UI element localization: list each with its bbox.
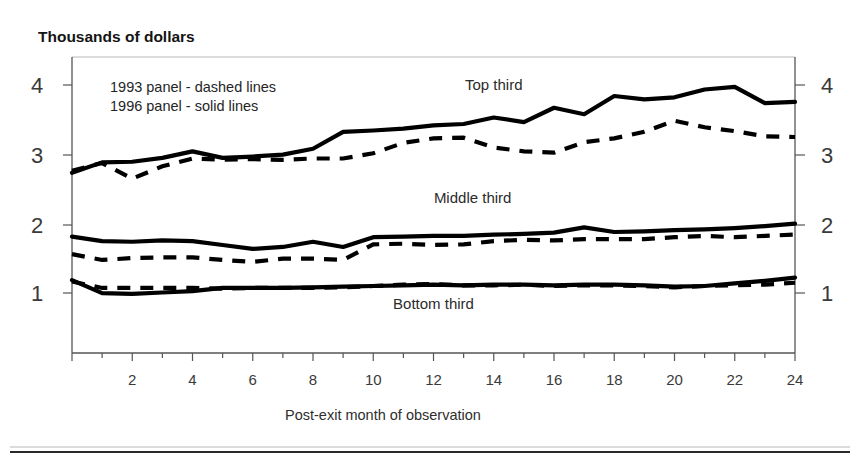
y-axis-title: Thousands of dollars	[38, 28, 195, 45]
x-tick-label-8: 8	[309, 371, 317, 388]
y-tick-label-right-4: 4	[821, 73, 833, 98]
x-tick-label-14: 14	[485, 371, 502, 388]
chart-figure: Thousands of dollars 4 3 2 1 4 3 2 1 246…	[0, 0, 860, 460]
x-tick-label-18: 18	[606, 371, 623, 388]
x-tick-label-12: 12	[425, 371, 442, 388]
series-label-top-third: Top third	[465, 76, 523, 93]
y-tick-label-left-3: 3	[31, 143, 43, 168]
y-tick-label-left-4: 4	[31, 73, 43, 98]
x-tick-label-20: 20	[666, 371, 683, 388]
x-tick-label-6: 6	[249, 371, 257, 388]
x-axis-title: Post-exit month of observation	[285, 407, 481, 423]
x-tick-label-2: 2	[128, 371, 136, 388]
series-label-bottom-third: Bottom third	[393, 295, 474, 312]
y-tick-label-left-2: 2	[31, 213, 43, 238]
y-tick-label-right-2: 2	[821, 213, 833, 238]
x-tick-label-10: 10	[365, 371, 382, 388]
x-tick-label-22: 22	[726, 371, 743, 388]
legend-entry-1993: 1993 panel - dashed lines	[110, 79, 276, 95]
legend-entry-1996: 1996 panel - solid lines	[110, 98, 258, 114]
y-tick-label-right-1: 1	[821, 281, 833, 306]
series-label-middle-third: Middle third	[434, 189, 512, 206]
y-tick-label-left-1: 1	[31, 281, 43, 306]
x-tick-label-4: 4	[188, 371, 196, 388]
x-tick-label-16: 16	[546, 371, 563, 388]
y-tick-label-right-3: 3	[821, 143, 833, 168]
x-tick-label-24: 24	[787, 371, 804, 388]
